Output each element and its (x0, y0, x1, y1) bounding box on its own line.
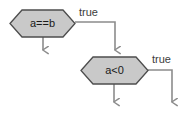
flowchart-svg: a==b a<0 true true (0, 0, 184, 119)
decision-node-a-lt-0-label: a<0 (105, 64, 124, 76)
flowchart-canvas: a==b a<0 true true (0, 0, 184, 119)
decision-node-a-eq-b-label: a==b (30, 17, 55, 29)
edge-label-a-lt-0-true: true (152, 53, 171, 65)
decision-node-a-eq-b[interactable]: a==b (10, 10, 75, 37)
edge-a-eq-b-true-line (75, 22, 115, 50)
edge-a-eq-b-true (75, 22, 115, 50)
decision-node-a-lt-0[interactable]: a<0 (81, 57, 148, 84)
edge-a-lt-0-true-line (148, 70, 172, 102)
edge-label-a-eq-b-true: true (79, 6, 98, 18)
edge-a-lt-0-true (148, 70, 172, 102)
